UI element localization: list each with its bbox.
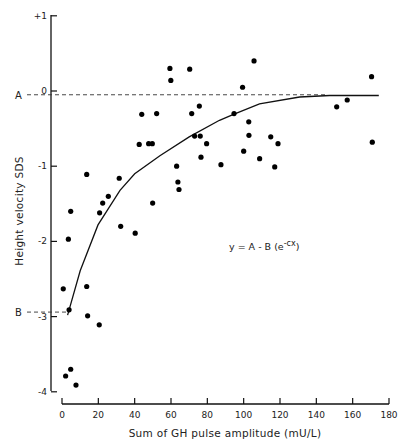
x-tick-label: 160 <box>344 410 361 420</box>
x-tick-label: 80 <box>202 410 214 420</box>
x-tick-label: 0 <box>59 410 65 420</box>
data-point <box>84 284 89 289</box>
data-point <box>218 162 223 167</box>
data-point <box>189 111 194 116</box>
x-axis-title: Sum of GH pulse amplitude (mU/L) <box>129 427 322 439</box>
data-point <box>61 286 66 291</box>
data-point <box>246 133 251 138</box>
x-tick-label: 120 <box>271 410 288 420</box>
reference-label-a: A <box>15 90 22 101</box>
data-point <box>251 58 256 63</box>
data-point <box>204 141 209 146</box>
data-point <box>174 164 179 169</box>
data-point <box>275 141 280 146</box>
data-point <box>246 119 251 124</box>
data-point <box>240 85 245 90</box>
y-axis-title: Height velocity SDS <box>13 156 25 266</box>
fitted-curve <box>68 96 379 316</box>
data-point <box>176 187 181 192</box>
data-point <box>100 200 105 205</box>
data-point <box>257 156 262 161</box>
y-ticks: +10-1-2-3-4 <box>34 11 57 397</box>
data-point <box>150 141 155 146</box>
axes: +10-1-2-3-4 020406080100120140160180 <box>34 11 398 420</box>
reference-label-b: B <box>15 307 22 318</box>
data-point <box>68 367 73 372</box>
data-point <box>118 224 123 229</box>
data-point <box>187 67 192 72</box>
data-point <box>369 74 374 79</box>
x-ticks: 020406080100120140160180 <box>59 398 398 420</box>
y-tick-label: -1 <box>38 161 47 171</box>
data-point <box>133 231 138 236</box>
x-tick-label: 60 <box>165 410 177 420</box>
y-tick-label: +1 <box>34 11 47 21</box>
data-point <box>68 209 73 214</box>
data-point <box>198 134 203 139</box>
x-tick-label: 140 <box>308 410 325 420</box>
y-tick-label: -4 <box>38 387 47 397</box>
data-point <box>106 194 111 199</box>
reference-lines <box>27 95 327 312</box>
data-point <box>137 142 142 147</box>
data-point <box>85 313 90 318</box>
x-tick-label: 20 <box>93 410 105 420</box>
x-tick-label: 40 <box>129 410 141 420</box>
data-point <box>167 66 172 71</box>
data-point <box>198 155 203 160</box>
scatter-chart: +10-1-2-3-4 020406080100120140160180 Hei… <box>0 0 406 446</box>
data-point <box>334 104 339 109</box>
data-point <box>231 111 236 116</box>
data-point <box>84 172 89 177</box>
data-point <box>154 111 159 116</box>
data-point <box>175 179 180 184</box>
data-point <box>272 164 277 169</box>
data-point <box>66 237 71 242</box>
data-point <box>117 176 122 181</box>
data-point <box>73 382 78 387</box>
y-tick-label: -2 <box>38 236 47 246</box>
data-point <box>345 97 350 102</box>
y-tick-label: -3 <box>38 312 47 322</box>
data-point <box>197 103 202 108</box>
data-point <box>66 307 71 312</box>
data-point <box>168 78 173 83</box>
data-point <box>268 134 273 139</box>
x-tick-label: 180 <box>380 410 397 420</box>
data-point <box>370 140 375 145</box>
data-point <box>63 373 68 378</box>
x-tick-label: 100 <box>235 410 252 420</box>
data-point <box>97 322 102 327</box>
data-point <box>97 210 102 215</box>
data-point <box>150 200 155 205</box>
data-point <box>192 134 197 139</box>
fit-equation: y = A - B (e-cx) <box>229 239 299 252</box>
data-point <box>139 112 144 117</box>
data-point <box>241 149 246 154</box>
data-points <box>61 58 375 387</box>
